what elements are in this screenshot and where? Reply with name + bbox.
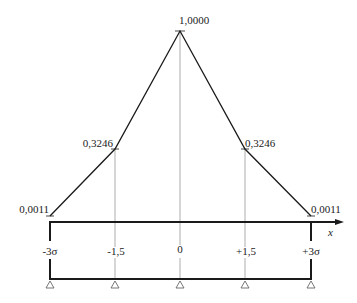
- peak-value-label: 1,0000: [179, 14, 210, 26]
- end-right-value-label: 0,0011: [311, 203, 341, 215]
- vertex-ticks: [46, 31, 315, 216]
- distribution-diagram: x 1,0000 0,3246 0,3246 0,0011 0,0011 -3σ…: [0, 0, 357, 303]
- support-icon: [241, 281, 249, 288]
- position-label: +1,5: [236, 245, 256, 257]
- x-axis-arrow-icon: [335, 219, 344, 225]
- support-icon: [46, 281, 54, 288]
- position-label: 0: [177, 243, 183, 255]
- end-left-value-label: 0,0011: [19, 203, 49, 215]
- support-icon: [111, 281, 119, 288]
- position-label: +3σ: [302, 245, 320, 257]
- distribution-curve: [50, 31, 311, 216]
- position-label: -1,5: [107, 245, 125, 257]
- knot-left-value-label: 0,3246: [83, 137, 114, 149]
- knot-right-value-label: 0,3246: [245, 137, 276, 149]
- support-icon: [176, 281, 184, 288]
- supports: [46, 281, 315, 288]
- guide-lines: [115, 31, 245, 279]
- x-axis-label: x: [327, 226, 333, 238]
- position-label: -3σ: [42, 245, 57, 257]
- support-icon: [307, 281, 315, 288]
